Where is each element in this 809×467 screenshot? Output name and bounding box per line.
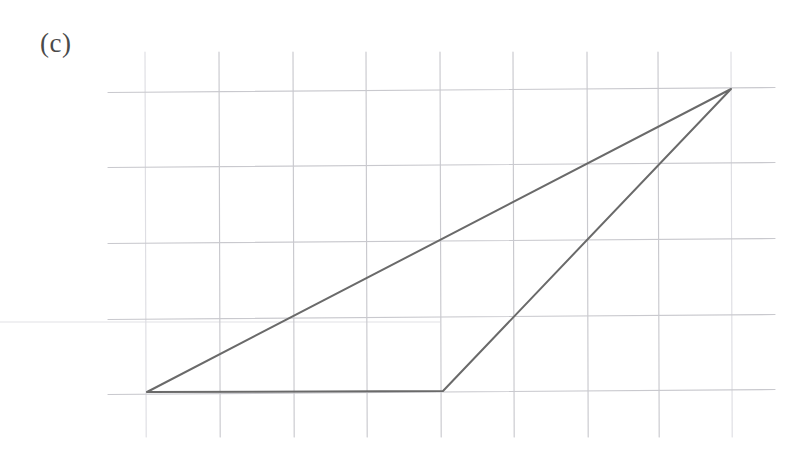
figure-background (0, 0, 809, 467)
figure-panel: (c) (0, 0, 809, 467)
panel-label: (c) (40, 30, 71, 57)
graph-paper-figure (0, 0, 809, 467)
